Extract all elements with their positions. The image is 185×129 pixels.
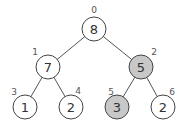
tree-node-0: 8 0	[82, 5, 106, 41]
node-value: 7	[44, 60, 52, 75]
tree-node-3: 1 3	[11, 87, 37, 119]
node-index-label: 2	[151, 47, 157, 57]
node-value: 2	[67, 100, 75, 115]
node-value: 1	[21, 100, 29, 115]
node-index-label: 3	[11, 87, 17, 97]
node-index-label: 1	[32, 47, 38, 57]
node-index-label: 5	[108, 87, 114, 97]
node-value: 2	[159, 100, 167, 115]
node-index-label: 0	[91, 5, 97, 15]
node-index-label: 6	[169, 87, 175, 97]
tree-node-4: 2 4	[59, 86, 83, 119]
node-value: 3	[113, 100, 121, 115]
tree-node-2: 5 2	[129, 47, 157, 79]
node-value: 8	[90, 22, 98, 37]
node-value: 5	[137, 60, 145, 75]
node-index-label: 4	[75, 86, 81, 96]
tree-node-5: 3 5	[105, 87, 129, 119]
tree-node-1: 7 1	[32, 47, 60, 79]
heap-tree-diagram: 8 0 7 1 5 2 1 3 2 4 3 5 2 6	[0, 0, 185, 129]
